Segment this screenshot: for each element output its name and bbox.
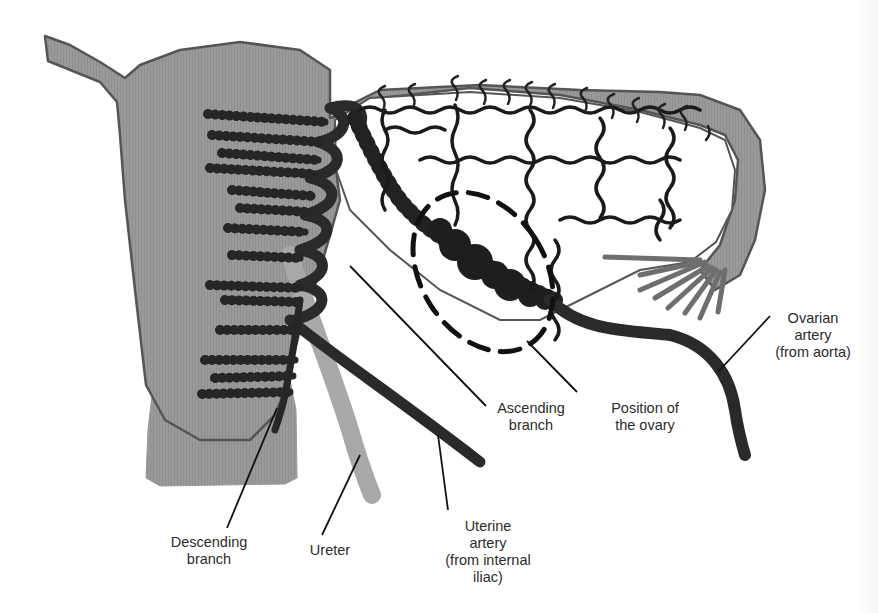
label-line: Ovarian	[763, 310, 863, 327]
label-uterine-artery: Uterine artery (from internal iliac)	[438, 518, 538, 586]
anatomy-diagram: Ovarian artery (from aorta) Ascending br…	[0, 0, 878, 613]
label-line: artery	[438, 535, 538, 552]
label-line: Descending	[154, 534, 264, 551]
label-line: branch	[486, 417, 576, 434]
label-line: Ascending	[486, 400, 576, 417]
label-line: Ureter	[300, 542, 360, 559]
page-edge-shading	[856, 0, 878, 613]
label-line: (from internal	[438, 552, 538, 569]
leader-ureter	[322, 455, 360, 535]
label-ovarian-artery: Ovarian artery (from aorta)	[763, 310, 863, 361]
leader-position-ovary	[527, 341, 577, 392]
label-ureter: Ureter	[300, 542, 360, 559]
label-line: Position of	[600, 400, 690, 417]
label-descending-branch: Descending branch	[154, 534, 264, 568]
label-ascending-branch: Ascending branch	[486, 400, 576, 434]
label-line: artery	[763, 327, 863, 344]
leader-uterine-artery	[438, 435, 448, 510]
label-line: Uterine	[438, 518, 538, 535]
label-line: the ovary	[600, 417, 690, 434]
label-line: branch	[154, 551, 264, 568]
label-position-of-ovary: Position of the ovary	[600, 400, 690, 434]
uterine-artery	[290, 320, 480, 462]
label-line: (from aorta)	[763, 344, 863, 361]
label-line: iliac)	[438, 569, 538, 586]
